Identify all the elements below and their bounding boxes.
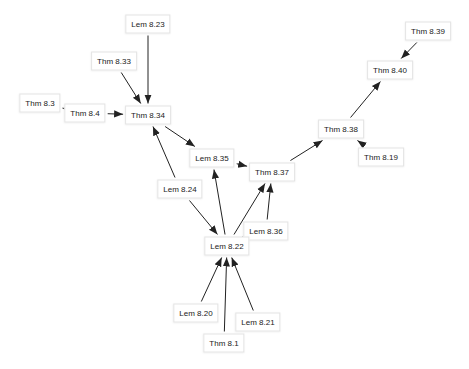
graph-node[interactable]: Thm 8.40	[367, 61, 413, 80]
graph-edge	[201, 258, 221, 302]
graph-edge	[351, 82, 381, 118]
graph-edge	[224, 258, 226, 332]
graph-node[interactable]: Thm 8.19	[358, 148, 404, 167]
graph-node[interactable]: Thm 8.34	[125, 106, 171, 125]
dependency-graph: Lem 8.23Thm 8.33Thm 8.3Thm 8.4Thm 8.34Le…	[0, 0, 469, 369]
graph-node[interactable]: Lem 8.24	[157, 180, 202, 199]
graph-edge	[401, 43, 417, 59]
graph-node[interactable]: Lem 8.20	[173, 304, 218, 323]
graph-edge	[267, 184, 271, 220]
graph-node[interactable]: Lem 8.35	[189, 149, 234, 168]
graph-node[interactable]: Thm 8.39	[405, 22, 451, 41]
graph-edge	[357, 141, 364, 146]
graph-node[interactable]: Thm 8.1	[203, 334, 244, 353]
graph-node[interactable]: Lem 8.21	[235, 313, 280, 332]
graph-node[interactable]: Thm 8.33	[91, 52, 137, 71]
graph-edge	[189, 201, 217, 235]
graph-edge	[121, 73, 141, 104]
graph-edge	[165, 127, 195, 147]
graph-edge	[153, 127, 175, 178]
graph-node[interactable]: Thm 8.3	[19, 94, 60, 113]
graph-node[interactable]: Thm 8.37	[249, 163, 295, 182]
graph-node[interactable]: Thm 8.38	[318, 120, 364, 139]
graph-node[interactable]: Lem 8.36	[243, 222, 288, 241]
graph-node[interactable]: Thm 8.4	[64, 104, 105, 123]
graph-node[interactable]: Lem 8.23	[125, 15, 170, 34]
graph-edge	[290, 141, 322, 161]
graph-edge	[237, 164, 247, 166]
graph-edge	[214, 170, 225, 235]
graph-edge	[232, 258, 254, 311]
graph-node[interactable]: Lem 8.22	[204, 237, 249, 256]
